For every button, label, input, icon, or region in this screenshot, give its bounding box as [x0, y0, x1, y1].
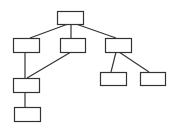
edge-root-c: [76, 24, 116, 38]
node-c: [106, 39, 132, 53]
edge-root-a: [30, 24, 68, 38]
node-g: [141, 73, 166, 86]
node-b: [61, 39, 86, 53]
node-a: [14, 39, 40, 53]
edges-layer: [25, 24, 149, 107]
tree-diagram: [0, 0, 178, 138]
nodes-layer: [14, 12, 166, 122]
edge-c-g: [119, 52, 149, 72]
node-f: [101, 73, 127, 86]
node-d: [14, 79, 40, 93]
node-e: [15, 108, 41, 122]
edge-b-d: [27, 52, 71, 78]
node-root: [58, 12, 84, 25]
edge-c-f: [111, 52, 116, 72]
